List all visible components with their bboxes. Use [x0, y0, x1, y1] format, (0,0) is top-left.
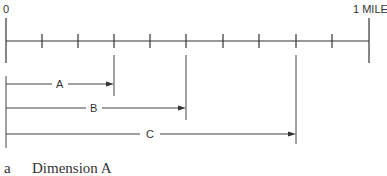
scale-bar — [6, 18, 369, 63]
dimension-b-label: B — [90, 102, 97, 114]
arrow-b-icon — [178, 106, 186, 111]
scale-start-label: 0 — [3, 3, 9, 15]
dimension-a-label: A — [56, 78, 64, 90]
caption-letter: a — [4, 160, 32, 176]
scale-diagram: 0 1 MILE — [0, 0, 387, 176]
arrowheads — [106, 82, 296, 137]
caption-text: Dimension A — [32, 160, 112, 176]
dimension-c-label: C — [146, 128, 154, 140]
arrow-a-icon — [106, 82, 114, 87]
scale-end-label: 1 MILE — [353, 3, 387, 15]
arrow-c-icon — [288, 132, 296, 137]
caption: aDimension A — [4, 160, 112, 176]
